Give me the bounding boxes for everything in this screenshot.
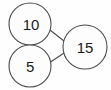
connector-line-bottom-to-whole (49, 53, 64, 63)
diagram-canvas-svg: 10 5 15 (0, 0, 111, 90)
node-label-part-top: 10 (23, 16, 39, 33)
number-bond-diagram: 10 5 15 (0, 0, 111, 90)
node-whole[interactable]: 15 (63, 25, 107, 69)
node-part-bottom[interactable]: 5 (9, 45, 51, 87)
connector-line-top-to-whole (50, 30, 64, 41)
node-part-top[interactable]: 10 (9, 3, 51, 45)
node-label-part-bottom: 5 (26, 58, 34, 75)
node-label-whole: 15 (77, 39, 93, 56)
